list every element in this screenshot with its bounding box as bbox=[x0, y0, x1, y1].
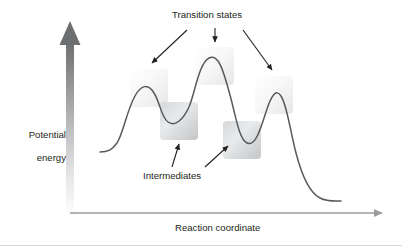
ts1-arrow bbox=[152, 30, 187, 63]
intermediates-leader-arrows bbox=[172, 144, 228, 167]
transition-states-label: Transition states bbox=[172, 9, 242, 21]
int1-arrow bbox=[172, 144, 179, 167]
ts3-arrow bbox=[243, 30, 272, 70]
y-axis-label-line2: energy bbox=[37, 152, 66, 163]
y-axis-label: Potential energy bbox=[14, 117, 66, 175]
x-axis-label: Reaction coordinate bbox=[175, 222, 260, 234]
potential-energy-diagram: Transition states Intermediates Potentia… bbox=[0, 0, 402, 246]
intermediate-boxes bbox=[160, 102, 261, 159]
intermediates-label: Intermediates bbox=[143, 170, 201, 182]
y-axis-label-line1: Potential bbox=[29, 129, 66, 140]
